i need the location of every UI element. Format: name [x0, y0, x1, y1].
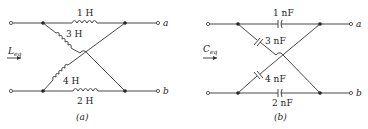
terminal-a	[349, 22, 352, 25]
terminal-left-bottom	[9, 89, 12, 92]
caption-a: (a)	[76, 112, 89, 122]
inductor-1h-icon	[72, 21, 97, 24]
capacitor-3nf-icon	[254, 38, 263, 46]
terminal-left-top	[9, 21, 12, 24]
terminal-b-label: b	[356, 88, 362, 98]
circuit-diagrams: 1 H a 2 H b 3 H 4 H Leq (a	[0, 0, 368, 129]
label-1h: 1 H	[77, 8, 94, 18]
terminal-left-top	[206, 22, 209, 25]
leq-label: Leq	[7, 46, 22, 58]
label-2h: 2 H	[77, 96, 94, 106]
label-3h: 3 H	[66, 29, 83, 39]
circuit-b: 1 nF a 2 nF b 3 nF 4 nF	[203, 8, 362, 122]
terminal-a	[156, 21, 159, 24]
label-4nf: 4 nF	[265, 74, 286, 84]
inductor-2h-icon	[73, 89, 98, 92]
ceq-label: Ceq	[203, 44, 217, 56]
terminal-b	[156, 89, 159, 92]
label-3nf: 3 nF	[265, 36, 286, 46]
caption-b: (b)	[274, 112, 287, 122]
label-2nf: 2 nF	[272, 98, 293, 108]
circuit-a: 1 H a 2 H b 3 H 4 H Leq (a	[7, 8, 169, 122]
arrow-right-icon	[213, 56, 217, 60]
terminal-a-label: a	[356, 19, 361, 29]
terminal-b	[349, 91, 352, 94]
terminal-a-label: a	[163, 18, 168, 28]
terminal-b-label: b	[163, 86, 169, 96]
label-4h: 4 H	[63, 76, 80, 86]
label-1nf: 1 nF	[273, 8, 294, 18]
terminal-left-bottom	[206, 91, 209, 94]
